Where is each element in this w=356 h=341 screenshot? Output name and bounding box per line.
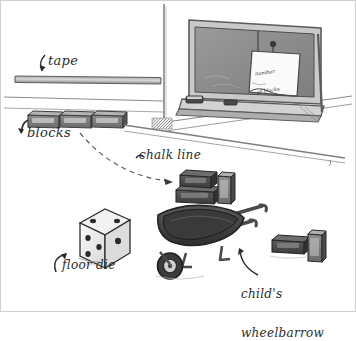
label-wheelbarrow-line1: child's [241,288,324,301]
block [180,170,217,188]
block [272,235,310,254]
eraser-icon [186,96,203,103]
block [218,172,235,204]
label-chalk-line: chalk line [139,148,201,162]
label-blocks: blocks [27,125,71,140]
block [176,185,220,204]
label-tape: tape [48,53,78,68]
label-childs-wheelbarrow: child's wheelbarrow [241,262,324,341]
label-floor-die: floor die [62,258,116,272]
note-line1: number [255,68,278,77]
block [92,111,127,128]
note-line2: of blocks [257,86,280,95]
block-cluster [176,170,235,204]
chalk-stick-icon [224,100,237,105]
block [308,230,326,262]
corner-hatch [152,118,172,129]
tape-strip [15,76,161,84]
label-wheelbarrow-line2: wheelbarrow [241,327,324,340]
